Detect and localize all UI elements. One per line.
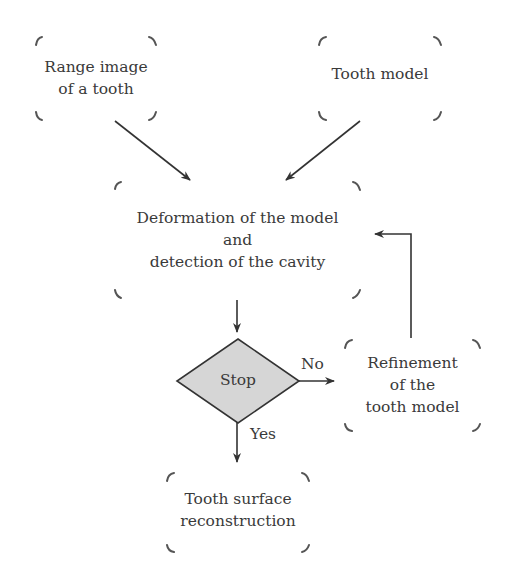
node-deformation-line-3: detection of the cavity [115,251,360,273]
edge-refinement-to-deformation [375,234,411,338]
node-deformation: Deformation of the model and detection o… [115,207,360,273]
node-range-image: Range image of a tooth [36,56,156,100]
node-refinement-line-1: Refinement [345,352,480,374]
node-refinement-line-2: of the [345,374,480,396]
stop-label: Stop [198,369,278,391]
node-stop-label: Stop [198,369,278,391]
edge-label-yes: Yes [250,425,276,443]
node-reconstruction: Tooth surface reconstruction [167,488,309,532]
node-deformation-line-1: Deformation of the model [115,207,360,229]
node-refinement: Refinement of the tooth model [345,352,480,418]
node-deformation-line-2: and [115,229,360,251]
node-range-image-line-1: Range image [36,56,156,78]
node-range-image-line-2: of a tooth [36,78,156,100]
edge-range-to-deformation [115,121,190,180]
node-reconstruction-line-1: Tooth surface [167,488,309,510]
node-reconstruction-line-2: reconstruction [167,510,309,532]
flowchart-canvas: Range image of a tooth Tooth model Defor… [0,0,511,579]
edge-label-no: No [301,355,324,373]
edge-tooth-to-deformation [286,121,360,180]
node-tooth-model: Tooth model [319,63,441,85]
node-refinement-line-3: tooth model [345,396,480,418]
node-tooth-model-line-1: Tooth model [319,63,441,85]
